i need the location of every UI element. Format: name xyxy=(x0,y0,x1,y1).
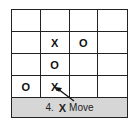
cell-0-2 xyxy=(70,10,99,32)
cell-0-0 xyxy=(12,10,41,32)
game-board: X O O O X 4. X Move xyxy=(11,9,128,118)
caption-action: Move xyxy=(69,102,93,113)
cell-2-0 xyxy=(12,54,41,76)
cell-0-1 xyxy=(41,10,70,32)
cell-1-1: X xyxy=(41,32,70,54)
board-grid: X O O O X xyxy=(12,10,127,98)
cell-0-3 xyxy=(98,10,127,32)
cell-2-3 xyxy=(98,54,127,76)
cell-2-1: O xyxy=(41,54,70,76)
caption-player: X xyxy=(59,102,66,114)
move-caption: 4. X Move xyxy=(12,98,127,117)
cell-1-3 xyxy=(98,32,127,54)
cell-3-1: X xyxy=(41,76,70,98)
cell-3-3 xyxy=(98,76,127,98)
cell-1-2: O xyxy=(70,32,99,54)
cell-1-0 xyxy=(12,32,41,54)
cell-3-0: O xyxy=(12,76,41,98)
cell-3-2 xyxy=(70,76,99,98)
cell-2-2 xyxy=(70,54,99,76)
caption-step: 4. xyxy=(45,102,53,113)
